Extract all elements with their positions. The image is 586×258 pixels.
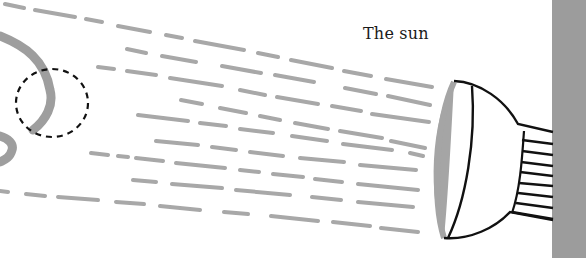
sun-label: The sun bbox=[363, 24, 429, 43]
wall bbox=[552, 0, 586, 258]
sun-illustration: The sun bbox=[0, 0, 586, 258]
illustration-svg bbox=[0, 0, 586, 258]
sun-lamp bbox=[434, 81, 553, 238]
sun-fins bbox=[512, 140, 553, 219]
planet bbox=[0, 36, 51, 162]
